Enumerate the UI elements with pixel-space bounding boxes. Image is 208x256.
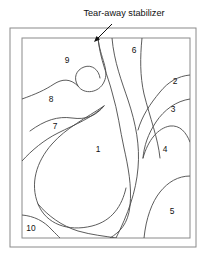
figure-caption: Tear-away stabilizer: [83, 8, 164, 18]
region-label-7: 7: [53, 121, 58, 131]
pattern-diagram: 12345678910 Tear-away stabilizer: [0, 0, 208, 256]
region-label-6: 6: [132, 45, 137, 55]
region-label-9: 9: [65, 55, 70, 65]
region-label-3: 3: [171, 104, 176, 114]
region-label-10: 10: [26, 223, 36, 233]
region-label-2: 2: [173, 76, 178, 86]
region-label-1: 1: [96, 144, 101, 154]
region-label-5: 5: [170, 206, 175, 216]
region-label-8: 8: [49, 94, 54, 104]
region-label-4: 4: [163, 144, 168, 154]
